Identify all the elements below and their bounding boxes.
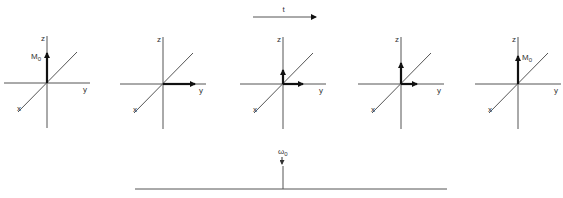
y-axis-label: y xyxy=(83,85,87,94)
z-axis-label: z xyxy=(157,35,161,44)
y-axis-label: y xyxy=(199,86,203,95)
z-axis-label: z xyxy=(41,34,45,43)
panel-2: zyx xyxy=(120,35,206,129)
y-axis-label: y xyxy=(437,86,441,95)
panel-1: zyxM0 xyxy=(4,34,90,128)
magnetization-diagram: t zyxM0zyxzyxzyxzyxM0 ω0 xyxy=(0,0,563,198)
x-axis-label: x xyxy=(133,105,137,114)
x-axis-label: x xyxy=(488,105,492,114)
x-axis-label: x xyxy=(17,104,21,113)
m0-label: M0 xyxy=(31,52,42,62)
x-axis-label: x xyxy=(371,105,375,114)
m0-label: M0 xyxy=(522,53,533,63)
panel-5: zyxM0 xyxy=(475,35,561,129)
x-axis-label: x xyxy=(253,105,257,114)
z-axis-label: z xyxy=(277,35,281,44)
spectrum-plot: ω0 xyxy=(135,147,447,189)
z-axis-label: z xyxy=(395,35,399,44)
panel-3: zyx xyxy=(240,35,326,129)
time-arrow: t xyxy=(253,5,316,17)
omega0-label: ω0 xyxy=(278,147,288,157)
panel-4: zyx xyxy=(358,35,444,129)
z-axis-label: z xyxy=(512,35,516,44)
y-axis-label: y xyxy=(319,86,323,95)
rotating-frame-panels: zyxM0zyxzyxzyxzyxM0 xyxy=(4,34,561,129)
y-axis-label: y xyxy=(554,86,558,95)
time-label: t xyxy=(283,5,286,14)
